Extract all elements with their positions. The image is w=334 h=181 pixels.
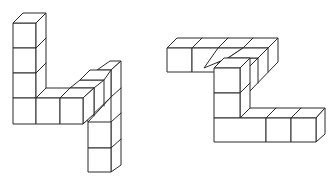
cube-diagram — [0, 0, 334, 181]
cube-figure-right — [167, 38, 325, 142]
cube-face — [60, 98, 83, 124]
cube-face — [13, 98, 36, 124]
cube-face — [214, 68, 240, 93]
cube-face — [88, 148, 111, 172]
cube-top-face — [240, 108, 325, 118]
cube-side-face — [111, 61, 121, 172]
cube-side-face — [36, 13, 46, 98]
cube-figure-left — [13, 13, 121, 172]
cube-face — [266, 118, 291, 142]
cube-face — [13, 48, 36, 73]
cube-face — [214, 93, 240, 118]
cube-face — [36, 98, 60, 124]
cube-face — [291, 118, 316, 142]
cube-face — [13, 73, 36, 98]
cube-face — [167, 48, 192, 72]
cube-face — [88, 122, 111, 148]
cube-face — [13, 23, 36, 48]
cube-face — [214, 118, 266, 142]
